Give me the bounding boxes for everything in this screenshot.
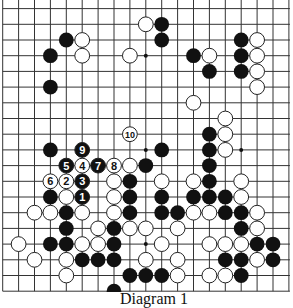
white-stone [75,33,90,48]
black-stone [186,48,201,63]
white-stone [91,221,106,236]
star-point-icon [144,148,148,152]
white-stone [91,237,106,252]
move-number-label: 5 [63,160,69,172]
black-stone [218,190,233,205]
black-stone [202,143,217,158]
star-point-icon [144,242,148,246]
black-stone [202,174,217,189]
white-stone [59,190,74,205]
black-stone [202,127,217,142]
move-number-label: 9 [79,144,85,156]
black-stone [266,252,281,267]
move-number-label: 3 [79,175,85,187]
black-stone [154,143,169,158]
black-stone [186,190,201,205]
white-stone [107,205,122,220]
star-point-icon [239,148,243,152]
white-stone [75,205,90,220]
black-stone [122,268,137,283]
white-stone [27,252,42,267]
black-stone [122,190,137,205]
white-stone [234,237,249,252]
black-stone [43,237,58,252]
white-stone [11,237,26,252]
black-stone [234,252,249,267]
move-number-label: 1 [79,191,85,203]
white-stone [186,205,201,220]
black-stone [107,237,122,252]
white-stone [250,48,265,63]
black-stone [154,17,169,32]
white-stone [234,174,249,189]
white-stone [59,252,74,267]
black-stone [234,33,249,48]
move-number-label: 6 [47,175,53,187]
white-stone [170,221,185,236]
white-stone [202,205,217,220]
black-stone [43,190,58,205]
white-stone [218,237,233,252]
white-stone [218,268,233,283]
move-number-label: 10 [125,130,135,140]
white-stone [202,48,217,63]
black-stone [91,252,106,267]
white-stone [234,190,249,205]
white-stone [202,237,217,252]
black-stone [234,64,249,79]
black-stone [154,205,169,220]
black-stone [107,221,122,236]
black-stone [59,33,74,48]
black-stone [234,205,249,220]
black-stone [138,158,153,173]
black-stone [122,205,137,220]
white-stone [59,268,74,283]
white-stone [122,158,137,173]
white-stone [122,48,137,63]
black-stone [218,205,233,220]
white-stone [27,205,42,220]
black-stone [234,221,249,236]
white-stone [122,221,137,236]
white-stone [75,48,90,63]
white-stone [138,17,153,32]
black-stone [218,252,233,267]
move-number-label: 4 [79,160,86,172]
white-stone [250,80,265,95]
white-stone [250,221,265,236]
black-stone [122,174,137,189]
white-stone [218,127,233,142]
star-point-icon [144,54,148,58]
white-stone [250,205,265,220]
black-stone [43,48,58,63]
black-stone [59,237,74,252]
black-stone [75,252,90,267]
black-stone [154,268,169,283]
black-stone [59,205,74,220]
white-stone [75,237,90,252]
black-stone [234,48,249,63]
move-number-label: 2 [63,175,69,187]
white-stone [154,237,169,252]
black-stone [107,252,122,267]
white-stone [250,33,265,48]
white-stone [138,221,153,236]
move-number-label: 7 [95,160,101,172]
white-stone [218,111,233,126]
move-number-label: 8 [111,160,117,172]
white-stone [186,174,201,189]
black-stone [202,64,217,79]
white-stone [250,252,265,267]
black-stone [234,268,249,283]
black-stone [138,268,153,283]
black-stone [43,80,58,95]
black-stone [59,221,74,236]
white-stone [107,174,122,189]
white-stone [170,268,185,283]
black-stone [43,143,58,158]
white-stone [107,190,122,205]
black-stone [154,33,169,48]
diagram-caption: Diagram 1 [120,290,188,308]
black-stone [250,237,265,252]
black-stone [266,237,281,252]
